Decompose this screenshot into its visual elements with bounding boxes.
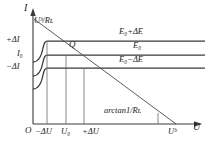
y-axis-label: I	[24, 3, 27, 13]
x-axis	[33, 121, 202, 126]
load-line-intercept-label: Uᵇ/Rʟ	[34, 16, 53, 25]
x-axis-label: U	[193, 122, 200, 132]
x-tick-label-u0: U₀	[61, 127, 70, 136]
supply-voltage-label: Uᵇ	[168, 127, 176, 136]
x-tick-label-minus-delta-u: −ΔU	[35, 127, 52, 136]
curve-label-e0-plus-de: E₀+ΔE	[119, 27, 143, 36]
origin-label: O	[25, 126, 32, 135]
x-tick-label-plus-delta-u: +ΔU	[82, 127, 99, 136]
drop-lines	[47, 41, 84, 124]
load-line-slope-label: arctan1/Rʟ	[104, 106, 141, 115]
curve-e0-minus-de	[33, 68, 205, 89]
curve-label-e0: E₀	[133, 41, 141, 50]
operating-point-label: Q	[69, 40, 76, 49]
y-axis	[30, 8, 35, 124]
y-tick-label-plus-delta-i: +ΔI	[6, 35, 20, 44]
y-tick-label-i0: I₀	[17, 49, 23, 58]
figure-container: I U O Uᵇ/Rʟ +ΔI I₀ −ΔI Q E₀+ΔE E₀ E₀−ΔE …	[0, 0, 208, 147]
y-tick-label-minus-delta-i: −ΔI	[6, 62, 20, 71]
curve-label-e0-minus-de: E₀−ΔE	[119, 55, 143, 64]
